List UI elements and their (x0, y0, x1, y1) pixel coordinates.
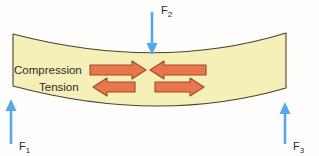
force-arrow-f2 (147, 12, 158, 55)
f2-subscript: 2 (168, 10, 173, 19)
force-arrow-f1 (6, 99, 17, 144)
f3-arrow-head (280, 102, 291, 114)
f3-subscript: 3 (300, 146, 305, 155)
force-label-f1: F1 (19, 140, 31, 155)
tension-label: Tension (39, 81, 79, 93)
beam-bending-stress-diagram: F2 F1 F3 Compression Tension (0, 0, 319, 156)
force-arrow-f3 (280, 102, 291, 144)
force-label-f2: F2 (161, 4, 173, 19)
f1-subscript: 1 (26, 146, 31, 155)
compression-label: Compression (14, 64, 82, 76)
f1-arrow-head (6, 99, 17, 111)
force-label-f3: F3 (293, 140, 305, 155)
